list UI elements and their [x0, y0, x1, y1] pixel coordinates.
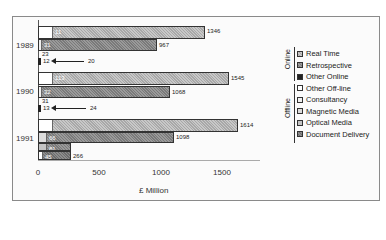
bar-1991-top	[38, 119, 238, 132]
seg-real-time: 11	[53, 27, 204, 38]
legend-label: Other Online	[306, 72, 349, 81]
annotation-label: 24	[90, 105, 97, 111]
seg-optical-media	[39, 144, 47, 150]
year-label-1990: 1990	[16, 87, 34, 96]
x-axis	[38, 160, 260, 161]
segment-label: 113	[55, 75, 65, 81]
bar-1991-optical: 81	[38, 143, 71, 151]
x-tick: 1500	[213, 168, 231, 177]
seg-retro-2: 81	[47, 144, 70, 150]
x-tick: 0	[36, 168, 40, 177]
legend-label: Real Time	[306, 49, 340, 58]
legend-item-other-online: Other Online	[297, 71, 369, 83]
annotation-label: 20	[88, 58, 95, 64]
offline-bracket	[294, 84, 295, 143]
legend-item-other-offline: Other Off-line	[297, 83, 369, 95]
seg-real-time: 113	[53, 73, 228, 84]
seg-other-offline	[39, 73, 53, 84]
swatch-icon	[297, 62, 303, 68]
online-bracket	[294, 47, 295, 81]
arrow-icon	[54, 108, 86, 109]
value-label: 967	[159, 42, 169, 48]
swatch-icon	[297, 51, 303, 57]
legend-label: Magnetic Media	[306, 107, 359, 116]
bar-1991-retro: 66	[38, 132, 174, 143]
segment-label: 32	[44, 89, 51, 95]
bar-1989-other-online	[38, 58, 41, 65]
x-axis-title: £ Million	[139, 186, 168, 195]
legend-item-consultancy: Consultancy	[297, 94, 369, 106]
segment-label: 11	[55, 29, 61, 35]
legend-label: Optical Media	[306, 118, 352, 127]
swatch-icon	[297, 74, 303, 80]
swatch-icon	[297, 131, 303, 137]
x-tick: 500	[92, 168, 105, 177]
value-label: 1098	[176, 134, 189, 140]
value-label: 13	[43, 105, 50, 111]
year-label-1991: 1991	[16, 134, 34, 143]
seg-retrospective: 66	[47, 133, 173, 142]
bar-1990-retro: 32	[38, 86, 170, 98]
value-label: 266	[73, 153, 83, 159]
legend-item-optical-media: Optical Media	[297, 117, 369, 129]
value-label: 1614	[240, 122, 253, 128]
swatch-icon	[297, 120, 303, 126]
value-label: 1545	[231, 75, 244, 81]
bar-1989-retro: 31	[38, 39, 157, 51]
legend-label: Consultancy	[306, 95, 347, 104]
x-tick: 1000	[152, 168, 170, 177]
swatch-icon	[297, 108, 303, 114]
seg-other-offline	[39, 27, 53, 38]
bar-1990-other-online	[38, 105, 41, 112]
segment-label: 31	[44, 42, 51, 48]
legend: Real Time Retrospective Other Online Oth…	[297, 48, 369, 140]
legend-item-real-time: Real Time	[297, 48, 369, 60]
value-label: 1346	[207, 28, 220, 34]
seg-real-time	[53, 120, 237, 131]
arrow-icon	[54, 61, 84, 62]
legend-group-online: Online	[284, 49, 291, 69]
bar-1990-top: 113	[38, 72, 229, 85]
seg-document-delivery: 45	[43, 152, 70, 159]
legend-label: Document Delivery	[306, 130, 369, 139]
legend-item-magnetic-media: Magnetic Media	[297, 106, 369, 118]
seg-retrospective: 31	[42, 40, 156, 50]
legend-item-document-delivery: Document Delivery	[297, 129, 369, 141]
segment-label: 66	[49, 135, 56, 141]
segment-label: 81	[49, 146, 56, 150]
legend-item-retrospective: Retrospective	[297, 60, 369, 72]
seg-other-offline	[39, 120, 53, 131]
value-label: 23	[42, 51, 49, 57]
value-label: 1068	[172, 89, 185, 95]
legend-label: Other Off-line	[306, 84, 351, 93]
bar-1989-top: 11	[38, 26, 205, 39]
swatch-icon	[297, 85, 303, 91]
value-label: 31	[42, 98, 49, 104]
legend-label: Retrospective	[306, 61, 352, 70]
bar-1991-docdel: 45	[38, 151, 71, 160]
year-label-1989: 1989	[16, 41, 34, 50]
value-label: 12	[43, 58, 50, 64]
swatch-icon	[297, 97, 303, 103]
seg-retrospective: 32	[42, 87, 169, 97]
seg-magnetic-media	[39, 133, 47, 142]
segment-label: 45	[45, 154, 52, 159]
legend-group-offline: Offline	[284, 98, 291, 118]
